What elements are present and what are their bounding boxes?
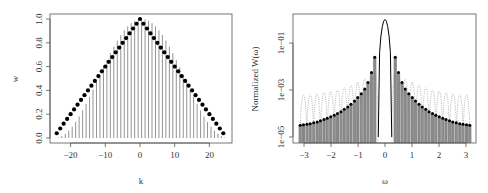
- window-point: [145, 26, 149, 30]
- y-tick-label: 1e−05: [276, 125, 286, 148]
- spectral-point: [305, 123, 308, 126]
- y-tick-label: 0.6: [34, 60, 44, 72]
- window-point: [124, 36, 128, 40]
- main-lobe-curve: [378, 20, 392, 138]
- spectral-point: [346, 105, 349, 108]
- spectral-point: [336, 112, 339, 115]
- left-x-axis-label: k: [139, 176, 144, 186]
- spectral-bar: [363, 89, 366, 143]
- spectral-bar: [444, 120, 447, 143]
- window-point: [193, 93, 197, 97]
- spectral-bar: [336, 114, 339, 144]
- spectral-point: [316, 120, 319, 123]
- chart-figure: −20−1001020 0.00.20.40.60.81.0 k w −3−2−…: [0, 0, 488, 193]
- spectral-bar: [404, 89, 407, 143]
- spectral-point: [424, 108, 427, 111]
- window-point: [186, 84, 190, 88]
- spectral-point: [407, 92, 410, 95]
- right-points: [299, 56, 472, 127]
- spectral-point: [414, 100, 417, 103]
- spectral-bar: [424, 109, 427, 143]
- spectral-bar: [343, 109, 346, 143]
- y-tick-label: 1e−03: [276, 78, 286, 101]
- spectral-bar: [438, 117, 441, 143]
- spectral-bar: [322, 120, 325, 143]
- x-tick-label: 20: [205, 150, 215, 160]
- left-plot-frame: [50, 14, 232, 143]
- spectral-point: [394, 56, 397, 59]
- window-point: [127, 31, 131, 35]
- spectral-point: [458, 122, 461, 125]
- window-point: [86, 88, 90, 92]
- x-tick-label: −10: [98, 150, 113, 160]
- window-point: [176, 69, 180, 73]
- spectral-bar: [411, 97, 414, 143]
- right-bars: [299, 57, 472, 143]
- left-y-axis-label: w: [10, 75, 20, 82]
- spectral-bar: [465, 125, 468, 143]
- spectral-point: [299, 124, 302, 127]
- spectral-bar: [329, 117, 332, 143]
- left-y-axis: 0.00.20.40.60.81.0: [34, 13, 50, 144]
- spectral-bar: [373, 57, 376, 143]
- window-point: [55, 131, 59, 135]
- window-point: [190, 88, 194, 92]
- window-point: [69, 112, 73, 116]
- window-point: [131, 26, 135, 30]
- spectral-point: [356, 96, 359, 99]
- spectral-bar: [316, 122, 319, 143]
- y-tick-label: 0.0: [34, 132, 44, 144]
- window-point: [93, 79, 97, 83]
- spectral-bar: [309, 124, 312, 143]
- spectral-point: [441, 117, 444, 120]
- y-tick-label: 1.0: [34, 13, 44, 25]
- spectral-point: [465, 123, 468, 126]
- window-point: [103, 65, 107, 69]
- spectral-point: [366, 81, 369, 84]
- spectral-bar: [394, 57, 397, 143]
- window-point: [148, 31, 152, 35]
- spectral-point: [448, 119, 451, 122]
- spectral-point: [438, 115, 441, 118]
- left-x-axis: −20−1001020: [64, 143, 215, 160]
- spectral-point: [434, 114, 437, 117]
- spectral-point: [397, 71, 400, 74]
- right-panel: −3−2−10123 1e−051e−031e−01 ω Normalized …: [250, 14, 476, 186]
- spectral-point: [343, 108, 346, 111]
- spectral-point: [445, 118, 448, 121]
- window-point: [218, 126, 222, 130]
- window-point: [58, 126, 62, 130]
- y-tick-label: 0.8: [34, 37, 44, 49]
- window-point: [134, 22, 138, 26]
- spectral-point: [411, 96, 414, 99]
- spectral-point: [319, 119, 322, 122]
- x-tick-label: −3: [299, 150, 309, 160]
- spectral-point: [370, 71, 373, 74]
- window-point: [117, 45, 121, 49]
- left-points: [55, 17, 226, 135]
- spectral-point: [353, 100, 356, 103]
- window-point: [214, 122, 218, 126]
- x-tick-label: 10: [170, 150, 180, 160]
- window-point: [75, 103, 79, 107]
- spectral-point: [428, 110, 431, 113]
- spectral-point: [363, 88, 366, 91]
- window-point: [62, 122, 66, 126]
- y-tick-label: 0.2: [34, 109, 44, 120]
- spectral-point: [312, 121, 315, 124]
- right-dotted-curve: [300, 69, 470, 143]
- spectral-bar: [451, 122, 454, 143]
- spectral-point: [455, 121, 458, 124]
- window-point: [200, 103, 204, 107]
- spectral-bar: [356, 97, 359, 143]
- right-x-axis: −3−2−10123: [299, 143, 469, 160]
- spectral-point: [418, 103, 421, 106]
- spectral-point: [451, 120, 454, 123]
- spectral-point: [373, 56, 376, 59]
- window-point: [162, 50, 166, 54]
- spectral-bar: [302, 125, 305, 143]
- window-point: [152, 36, 156, 40]
- spectral-point: [322, 118, 325, 121]
- spectral-point: [329, 115, 332, 118]
- right-y-axis-label: Normalized W(ω): [250, 47, 260, 112]
